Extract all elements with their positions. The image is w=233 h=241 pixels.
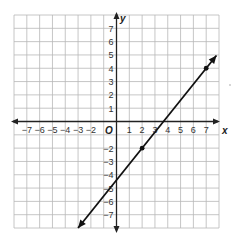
- y-tick-label: 5: [108, 50, 113, 60]
- x-tick-label: −7: [22, 125, 32, 135]
- y-tick-label: 4: [108, 64, 113, 74]
- y-tick-label: −6: [103, 197, 113, 207]
- y-axis-arrow-up: [114, 12, 120, 19]
- x-tick-label: −4: [60, 125, 70, 135]
- x-axis-label: x: [221, 125, 228, 136]
- origin-label: O: [105, 125, 113, 136]
- y-axis-label: y: [119, 13, 126, 24]
- y-tick-label: −2: [103, 144, 113, 154]
- x-tick-label: 2: [140, 125, 145, 135]
- y-tick-label: −7: [103, 210, 113, 220]
- data-point: [140, 146, 145, 151]
- data-point: [204, 66, 209, 71]
- y-tick-label: −4: [103, 170, 113, 180]
- scan-speck: [229, 84, 231, 86]
- x-tick-label: 1: [127, 125, 132, 135]
- x-tick-label: 5: [178, 125, 183, 135]
- x-axis-arrow-left: [11, 119, 18, 125]
- x-tick-label: −5: [47, 125, 57, 135]
- x-tick-label: 6: [191, 125, 196, 135]
- x-tick-label: −3: [73, 125, 83, 135]
- x-tick-label: −2: [86, 125, 96, 135]
- y-tick-label: 1: [108, 104, 113, 114]
- y-tick-label: 7: [108, 24, 113, 34]
- x-tick-label: 4: [165, 125, 170, 135]
- y-tick-label: −3: [103, 157, 113, 167]
- coordinate-graph: −7−6−5−4−3−212345677654321−2−3−4−5−6−7 x…: [0, 0, 233, 241]
- x-tick-label: −6: [34, 125, 44, 135]
- y-tick-label: 6: [108, 37, 113, 47]
- y-axis-arrow-down: [114, 226, 120, 233]
- x-tick-label: 7: [204, 125, 209, 135]
- axes: [11, 12, 220, 233]
- y-tick-label: 3: [108, 77, 113, 87]
- y-tick-label: 2: [108, 90, 113, 100]
